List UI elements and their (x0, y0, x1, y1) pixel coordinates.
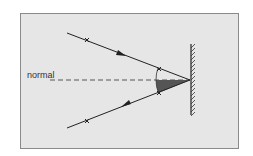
incident-arrow-icon (116, 50, 126, 56)
reflection-diagram (0, 0, 253, 156)
reflected-arrow-icon (121, 100, 131, 107)
mirror-hatching (191, 44, 195, 116)
incident-ray (67, 33, 190, 80)
